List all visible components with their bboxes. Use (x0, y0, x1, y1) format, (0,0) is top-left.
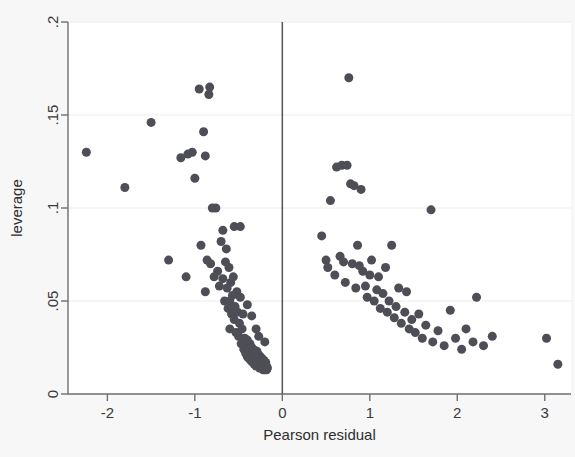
x-axis-title: Pearson residual (263, 426, 376, 443)
data-point (339, 257, 348, 266)
chart-canvas: 0.05.1.15.2 -2-10123 Pearson residual le… (0, 0, 575, 457)
x-axis-tick-label: -2 (101, 404, 114, 421)
data-point (196, 241, 205, 250)
data-point (344, 73, 353, 82)
data-point (205, 83, 214, 92)
data-point (222, 244, 231, 253)
data-point (402, 287, 411, 296)
data-point (211, 204, 220, 213)
data-point (411, 328, 420, 337)
x-axis-tick-label: 0 (278, 404, 286, 421)
data-point (469, 337, 478, 346)
data-point (343, 161, 352, 170)
data-point (367, 256, 376, 265)
data-point (238, 310, 247, 319)
data-point (414, 310, 423, 319)
y-axis-tick-label: .1 (44, 202, 61, 215)
data-point (383, 308, 392, 317)
data-point (542, 334, 551, 343)
data-point (236, 222, 245, 231)
data-point (428, 337, 437, 346)
data-point (434, 326, 443, 335)
data-point (385, 297, 394, 306)
data-point (387, 241, 396, 250)
data-point (400, 308, 409, 317)
data-point (357, 185, 366, 194)
data-point (147, 118, 156, 127)
data-point (195, 84, 204, 93)
y-axis-tick-label: .05 (44, 291, 61, 312)
data-point (201, 287, 210, 296)
data-point (553, 360, 562, 369)
data-point (238, 324, 247, 333)
screenshot-root: 0.05.1.15.2 -2-10123 Pearson residual le… (0, 0, 575, 457)
y-axis-tick-label: 0 (44, 390, 61, 398)
data-point (326, 196, 335, 205)
data-point (472, 293, 481, 302)
data-point (213, 267, 222, 276)
data-point (225, 324, 234, 333)
data-point (229, 272, 238, 281)
data-point (427, 205, 436, 214)
data-point (407, 315, 416, 324)
data-point (351, 283, 360, 292)
data-point (374, 272, 383, 281)
data-point (479, 341, 488, 350)
data-point (217, 237, 226, 246)
y-axis-tick-label: .15 (44, 105, 61, 126)
data-point (440, 341, 449, 350)
data-point (206, 259, 215, 268)
data-point (218, 274, 227, 283)
x-axis-tick-label: 2 (453, 404, 461, 421)
data-point (330, 270, 339, 279)
data-point (446, 306, 455, 315)
data-point (218, 226, 227, 235)
data-point (190, 174, 199, 183)
data-point (418, 334, 427, 343)
data-point (322, 256, 331, 265)
data-point (421, 321, 430, 330)
data-point (394, 283, 403, 292)
data-point (397, 319, 406, 328)
data-point (378, 289, 387, 298)
data-point (457, 345, 466, 354)
data-point (392, 302, 401, 311)
scatter-plot-figure: 0.05.1.15.2 -2-10123 Pearson residual le… (0, 0, 575, 457)
data-point (82, 148, 91, 157)
data-point (370, 297, 379, 306)
x-axis-tick-label: 1 (366, 404, 374, 421)
data-point (451, 334, 460, 343)
data-point (164, 256, 173, 265)
data-point (243, 300, 252, 309)
data-point (247, 311, 256, 320)
data-point (182, 272, 191, 281)
data-point (353, 241, 362, 250)
y-axis-tick-label: .2 (44, 16, 61, 29)
data-point (341, 278, 350, 287)
data-point (201, 151, 210, 160)
data-point (381, 263, 390, 272)
data-point (188, 148, 197, 157)
data-point (488, 332, 497, 341)
data-point (317, 231, 326, 240)
data-point (263, 363, 272, 372)
x-axis-tick-label: -1 (188, 404, 201, 421)
y-axis-title: leverage (8, 179, 25, 237)
data-point (199, 127, 208, 136)
data-point (323, 263, 332, 272)
data-point (365, 270, 374, 279)
data-point (390, 313, 399, 322)
data-point (361, 282, 370, 291)
data-point (224, 263, 233, 272)
data-point (236, 293, 245, 302)
data-point (254, 332, 263, 341)
data-point (120, 183, 129, 192)
x-axis-tick-label: 3 (541, 404, 549, 421)
data-point (462, 324, 471, 333)
